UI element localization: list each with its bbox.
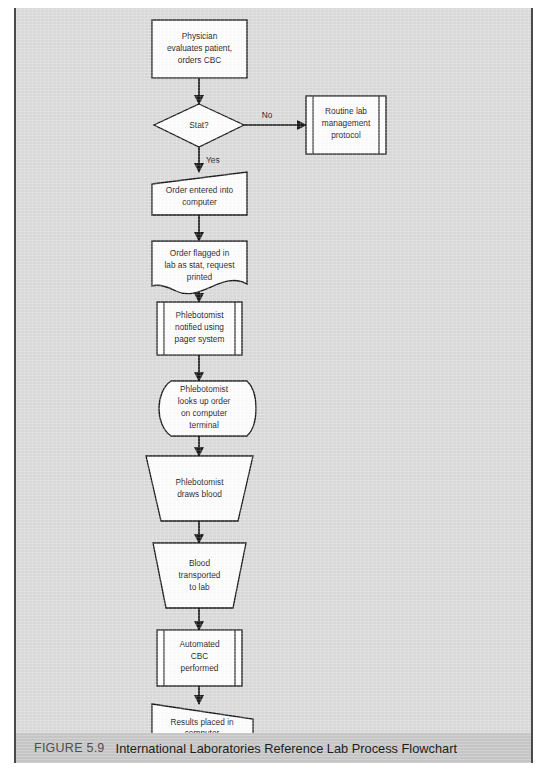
figure-container: No Yes Physician evaluates patient, orde…	[0, 0, 547, 770]
node-blood-transported-to-lab[interactable]: Blood transported to lab	[153, 543, 246, 608]
node-phlebotomist-draws-blood[interactable]: Phlebotomist draws blood	[146, 456, 253, 521]
node-label-line: Order flagged in	[170, 248, 230, 258]
node-label-line: orders CBC	[178, 55, 221, 65]
node-label-line: Order entered into	[166, 185, 234, 195]
node-label-line: transported	[179, 570, 221, 580]
node-label-line: lab as stat, request	[164, 260, 235, 270]
node-label-line: to lab	[189, 582, 210, 592]
node-label-line: on computer	[181, 408, 227, 418]
node-label-line: evaluates patient,	[167, 43, 232, 53]
node-label-line: performed	[181, 663, 219, 673]
node-label-line: pager system	[175, 334, 225, 344]
node-label-line: notified using	[175, 322, 224, 332]
flowchart-panel: No Yes Physician evaluates patient, orde…	[14, 8, 533, 733]
edge-label-yes: Yes	[206, 155, 220, 165]
figure-caption: FIGURE 5.9 International Laboratories Re…	[14, 733, 533, 763]
node-label-line: Routine lab	[325, 106, 367, 116]
node-label-line: Phlebotomist	[176, 310, 225, 320]
node-order-flagged-in-lab[interactable]: Order flagged in lab as stat, request pr…	[152, 241, 247, 294]
node-label-line: printed	[187, 272, 213, 282]
node-label-line: looks up order	[178, 396, 231, 406]
node-stat-decision[interactable]: Stat?	[154, 104, 244, 147]
node-label-line: Automated	[179, 639, 220, 649]
node-label-line: Stat?	[189, 120, 209, 130]
node-label-line: Phlebotomist	[180, 384, 229, 394]
node-label-line: Results placed in	[170, 717, 234, 727]
node-phlebotomist-notified-using-pager[interactable]: Phlebotomist notified using pager system	[157, 302, 242, 355]
node-phlebotomist-looks-up-order[interactable]: Phlebotomist looks up order on computer …	[159, 381, 256, 436]
node-results-placed-in-computer[interactable]: Results placed in computer	[152, 704, 253, 733]
node-label-line: computer	[182, 197, 217, 207]
node-label-line: CBC	[191, 651, 209, 661]
node-label-line: management	[322, 118, 371, 128]
node-order-entered-into-computer[interactable]: Order entered into computer	[152, 172, 247, 215]
node-label-line: Physician	[182, 31, 218, 41]
node-label-line: Blood	[189, 558, 211, 568]
edge-label-no: No	[262, 110, 273, 120]
flowchart-canvas: No Yes Physician evaluates patient, orde…	[16, 8, 535, 733]
node-label-line: draws blood	[177, 489, 222, 499]
figure-number-label: FIGURE 5.9	[34, 741, 105, 755]
node-routine-lab-management-protocol[interactable]: Routine lab management protocol	[306, 96, 386, 154]
node-physician-evaluates-patient[interactable]: Physician evaluates patient, orders CBC	[152, 20, 247, 78]
node-automated-cbc-performed[interactable]: Automated CBC performed	[157, 630, 242, 686]
node-label-line: Phlebotomist	[176, 477, 225, 487]
node-label-line: protocol	[331, 130, 361, 140]
figure-title: International Laboratories Reference Lab…	[116, 741, 457, 756]
node-label-line: terminal	[189, 420, 219, 430]
